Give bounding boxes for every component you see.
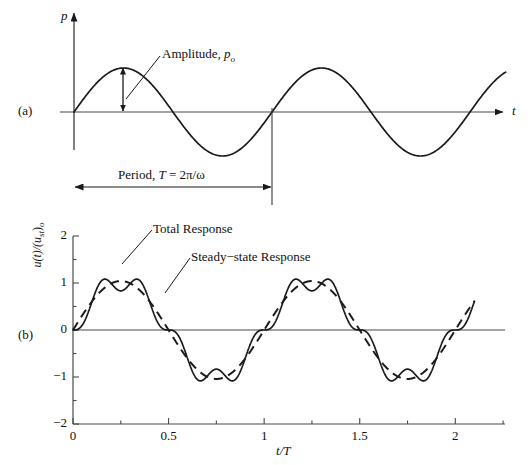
y-tick-label: 2 [43, 228, 67, 241]
steady-state-response-annotation: Steady−state Response [191, 250, 311, 263]
panel-b-y-label-sub-o: o [36, 222, 46, 227]
panel-b-total-response-leader [122, 230, 152, 264]
panel-b-y-label-main: u(t)/(u [30, 237, 44, 268]
y-tick-label: −1 [43, 369, 67, 382]
panel-b-x-label-T: T [283, 443, 290, 458]
total-response-annotation: Total Response [153, 222, 233, 235]
panel-b-x-axis-label: t/T [276, 444, 290, 457]
panel-b-x-ticks [73, 418, 503, 424]
panel-b-graphics [0, 0, 531, 465]
y-tick-label: 0 [43, 322, 67, 335]
figure-container: (a) p t Amplitude, po Period, T = 2π/ω (… [0, 0, 531, 465]
x-tick-label: 1.5 [340, 429, 380, 442]
x-tick-label: 0 [53, 429, 93, 442]
panel-b-tag: (b) [18, 328, 33, 341]
y-tick-label: 1 [43, 275, 67, 288]
x-tick-label: 2 [435, 429, 475, 442]
panel-b-y-label-close: ) [30, 227, 44, 231]
x-tick-label: 0.5 [149, 429, 189, 442]
x-tick-label: 1 [244, 429, 284, 442]
y-tick-label: −2 [43, 416, 67, 429]
panel-b-steady-state-leader [165, 258, 190, 293]
